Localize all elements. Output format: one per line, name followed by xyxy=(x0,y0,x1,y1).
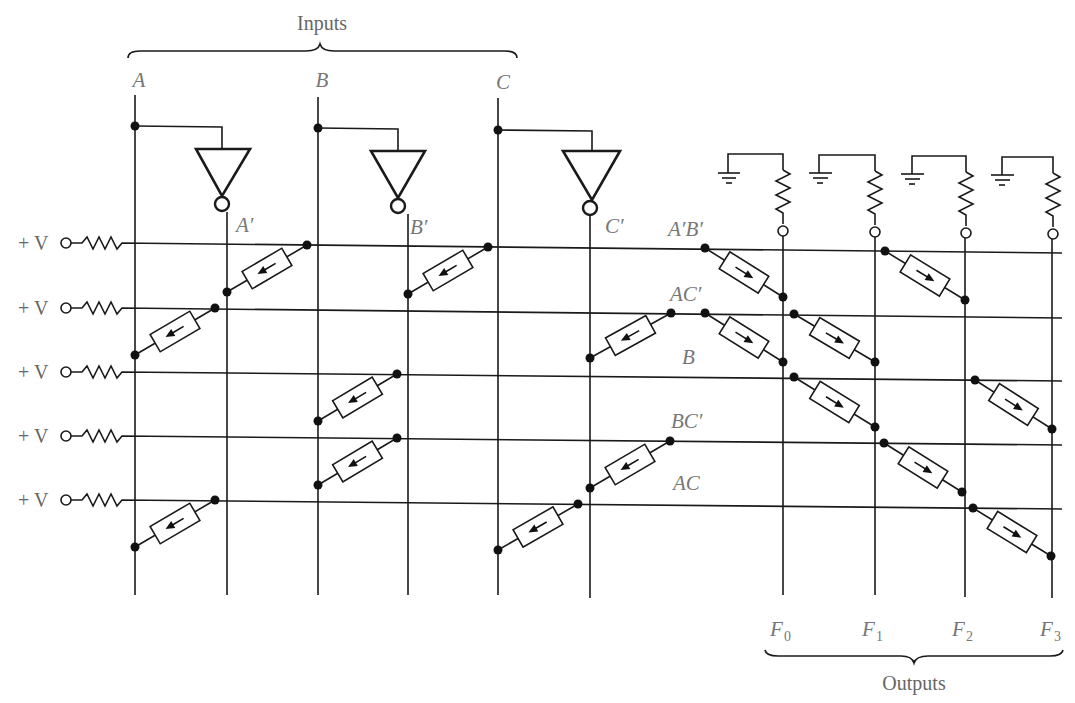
supply-terminal-icon xyxy=(61,431,71,441)
diode-icon xyxy=(513,507,563,547)
junction-dot xyxy=(790,310,799,319)
junction-dot xyxy=(494,546,503,555)
and-diode xyxy=(494,500,583,555)
or-diode xyxy=(971,376,1057,434)
input-column-lines xyxy=(135,95,590,598)
supply-label: + V xyxy=(18,232,49,254)
row-5: + V xyxy=(18,489,1062,511)
inverter-c: C′ xyxy=(494,126,625,239)
pulldown-f1 xyxy=(809,155,882,595)
supply-terminal-icon xyxy=(61,495,71,505)
junction-dot xyxy=(131,543,140,552)
and-diode xyxy=(131,304,220,360)
junction-dot xyxy=(790,373,799,382)
resistor-icon xyxy=(71,237,1062,253)
and-diode xyxy=(586,437,675,493)
diode-icon xyxy=(423,250,473,291)
junction-dot xyxy=(404,290,413,299)
diode-matrix xyxy=(131,241,1057,561)
junction-dot xyxy=(484,243,493,252)
junction-dot xyxy=(131,351,140,360)
supply-terminal-icon xyxy=(61,303,71,313)
diode-icon xyxy=(719,317,769,358)
junction-dot xyxy=(961,296,970,305)
output-sub-f2: 2 xyxy=(966,629,973,644)
supply-label: + V xyxy=(18,297,49,319)
output-label-f1: F xyxy=(861,617,875,641)
output-label-f2: F xyxy=(951,617,965,641)
diode-icon xyxy=(898,447,948,488)
resistor-icon xyxy=(71,430,1062,445)
diode-icon xyxy=(810,381,860,422)
output-label-f3: F xyxy=(1039,617,1053,641)
diode-icon xyxy=(900,255,950,296)
junction-dot xyxy=(971,376,980,385)
output-sub-f0: 0 xyxy=(784,629,791,644)
junction-dot xyxy=(701,309,710,318)
output-labels: F 0 F 1 F 2 F 3 xyxy=(769,617,1061,644)
resistor-icon xyxy=(71,302,1062,318)
or-diode xyxy=(701,244,788,302)
supply-label: + V xyxy=(18,425,49,447)
inverted-label-c: C′ xyxy=(605,214,624,238)
junction-dot xyxy=(666,437,675,446)
resistor-icon xyxy=(71,366,1062,381)
output-label-f0: F xyxy=(769,617,783,641)
row-1: + V xyxy=(18,232,1062,254)
junction-dot xyxy=(779,293,788,302)
junction-dot xyxy=(211,304,220,313)
junction-dot xyxy=(393,434,402,443)
junction-dot xyxy=(871,423,880,432)
junction-dot xyxy=(779,358,788,367)
diode-icon xyxy=(242,248,292,289)
or-diode xyxy=(881,247,970,305)
pulldown-f2 xyxy=(901,156,973,597)
and-diode xyxy=(314,434,402,490)
diode-icon xyxy=(333,441,383,482)
term-label-b: B xyxy=(682,345,695,369)
junction-dot xyxy=(393,370,402,379)
supply-terminal-icon xyxy=(61,238,71,248)
junction-dot xyxy=(303,241,312,250)
and-diode xyxy=(223,241,312,297)
inverter-b: B′ xyxy=(314,124,428,240)
output-sub-f3: 3 xyxy=(1054,629,1061,644)
and-diode xyxy=(404,243,493,299)
junction-dot xyxy=(667,309,676,318)
junction-dot xyxy=(1048,425,1057,434)
or-diode xyxy=(701,309,788,367)
supply-label: + V xyxy=(18,489,49,511)
junction-dot xyxy=(871,358,880,367)
term-label-bc-prime: BC′ xyxy=(671,409,703,433)
diode-icon xyxy=(605,444,655,485)
inputs-brace: Inputs xyxy=(128,12,517,58)
row-4: + V xyxy=(18,425,1062,447)
junction-dot xyxy=(701,244,710,253)
inverted-label-a: A′ xyxy=(234,213,254,237)
junction-dot xyxy=(223,288,232,297)
diode-icon xyxy=(150,311,200,352)
junction-dot xyxy=(880,439,889,448)
resistor-icon xyxy=(71,494,1062,509)
or-diode xyxy=(969,504,1056,561)
inverter-a: A′ xyxy=(131,122,254,238)
junction-dot xyxy=(969,504,978,513)
or-diode xyxy=(880,439,967,497)
junction-dot xyxy=(1047,552,1056,561)
row-3: + V xyxy=(18,361,1062,383)
or-diode xyxy=(790,310,880,367)
diode-icon xyxy=(987,511,1037,552)
term-label-a-prime-b-prime: A′B′ xyxy=(666,217,703,241)
junction-dot xyxy=(314,481,323,490)
pulldown-f0 xyxy=(718,154,790,595)
diode-icon xyxy=(606,316,656,356)
diode-icon xyxy=(989,384,1039,426)
row-2: + V xyxy=(18,297,1062,319)
term-label-ac-prime: AC′ xyxy=(668,282,702,306)
diode-icon xyxy=(719,252,769,293)
supply-terminal-icon xyxy=(61,367,71,377)
input-label-c: C xyxy=(496,70,511,94)
and-diode xyxy=(131,496,220,552)
or-diode xyxy=(790,373,880,432)
output-sub-f1: 1 xyxy=(876,629,883,644)
